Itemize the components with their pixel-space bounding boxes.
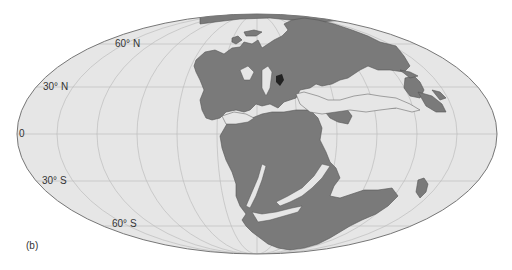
panel-label: (b) xyxy=(26,240,38,251)
lat-label-60n: 60° N xyxy=(115,38,140,49)
world-map xyxy=(0,0,512,270)
lat-label-60s: 60° S xyxy=(112,218,137,229)
lat-label-30s: 30° S xyxy=(42,175,67,186)
lat-label-30n: 30° N xyxy=(43,81,68,92)
lat-label-equator: 0 xyxy=(19,128,25,139)
